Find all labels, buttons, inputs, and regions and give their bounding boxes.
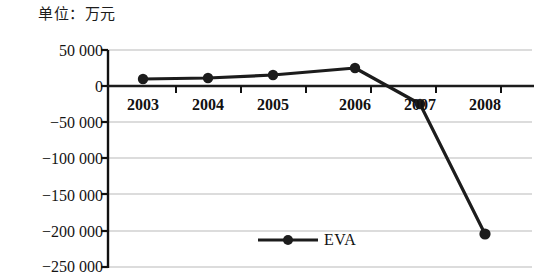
chart-legend: EVA: [258, 231, 356, 249]
data-point-2005: [268, 70, 278, 80]
x-tick-label-2003: 2003: [127, 96, 159, 114]
legend-marker-icon: [258, 233, 318, 247]
x-tick-label-2007: 2007: [404, 96, 436, 114]
eva-series-line: [143, 68, 485, 234]
x-tick-label-2008: 2008: [469, 96, 501, 114]
x-tick-label-2005: 2005: [257, 96, 289, 114]
x-tick-label-2006: 2006: [339, 96, 371, 114]
x-tick-label-2004: 2004: [192, 96, 224, 114]
data-point-2003: [138, 74, 148, 84]
data-point-2008: [479, 228, 490, 239]
eva-series-markers: [138, 63, 491, 240]
data-point-2006: [350, 63, 360, 73]
legend-label-eva: EVA: [324, 231, 356, 249]
data-point-2004: [203, 73, 213, 83]
